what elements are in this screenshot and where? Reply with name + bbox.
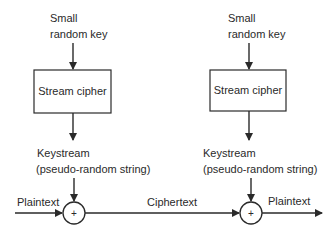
left-encryption-column: Small random key Stream cipher Keystream… (34, 12, 150, 201)
right-xor-plus-icon: + (248, 208, 254, 219)
left-keystream-label-line1: Keystream (37, 147, 90, 159)
left-key-label-line1: Small (50, 12, 78, 24)
right-key-label-line1: Small (228, 12, 256, 24)
left-keystream-label-line2: (pseudo-random string) (36, 163, 150, 175)
left-xor-plus-icon: + (71, 208, 77, 219)
right-stream-cipher-label: Stream cipher (214, 84, 283, 96)
data-flow: Plaintext + Ciphertext + Plaintext (15, 195, 322, 224)
ciphertext-label: Ciphertext (147, 196, 197, 208)
left-key-label-line2: random key (50, 28, 108, 40)
output-plaintext-label: Plaintext (268, 195, 310, 207)
right-key-label-line2: random key (228, 28, 286, 40)
left-stream-cipher-label: Stream cipher (38, 85, 107, 97)
right-decryption-column: Small random key Stream cipher Keystream… (203, 12, 317, 201)
input-plaintext-label: Plaintext (17, 196, 59, 208)
stream-cipher-diagram: Small random key Stream cipher Keystream… (0, 0, 328, 240)
right-keystream-label-line2: (pseudo-random string) (203, 163, 317, 175)
right-keystream-label-line1: Keystream (203, 147, 256, 159)
